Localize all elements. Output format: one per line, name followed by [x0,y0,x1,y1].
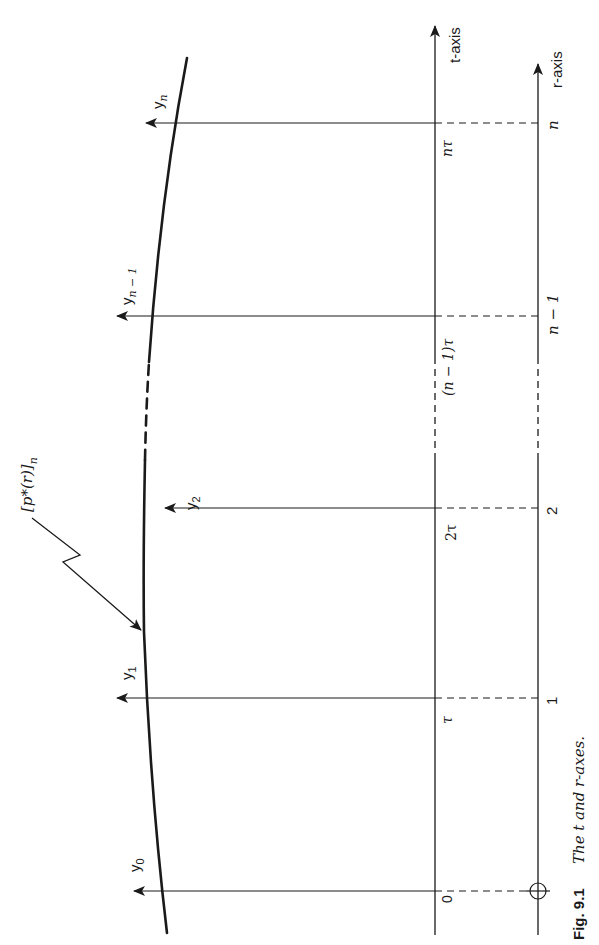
r-axis-label: r-axis [548,51,565,88]
t-tick-n-1-tau: (n − 1)τ [440,339,456,396]
t-tick-n-tau: nτ [439,140,455,157]
t-tick-2tau: 2τ [443,524,459,541]
ordinate-lines [117,123,435,891]
diagram-canvas: y0 y1 y2 yn − 1 yn [p*(r)]n 0 τ 2τ (n − … [0,0,599,945]
curve-p-star [144,58,187,933]
r-tick-n-1: n − 1 [544,294,562,335]
label-yn-1: yn − 1 [118,267,139,305]
curve-label-leader [32,518,141,630]
t-axis-label: t-axis [446,27,463,63]
label-y1: y1 [118,666,138,680]
curve-label: [p*(r)]n [18,457,40,512]
t-tick-0: 0 [439,895,455,903]
figure-number: Fig. 9.1 [570,888,587,940]
r-tick-2: 2 [543,507,560,515]
tick-connectors [435,123,538,891]
r-tick-n: n [544,120,562,130]
r-tick-1: 1 [543,697,560,705]
figure-caption: The t and r-axes. [570,736,588,864]
label-yn: yn [149,94,170,109]
t-tick-tau: τ [439,716,455,724]
label-y0: y0 [126,858,146,872]
